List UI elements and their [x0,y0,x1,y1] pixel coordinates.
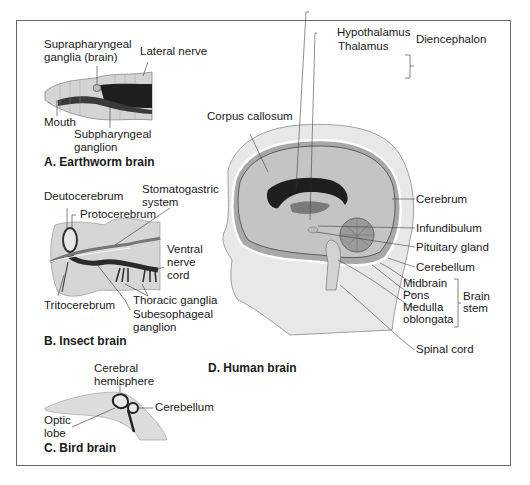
label-diencephalon: Diencephalon [416,33,486,46]
label-ventral-line2: nerve [167,256,196,269]
label-stomatogastric-line1: Stomatogastric [142,183,219,196]
label-cerebrum: Cerebrum [416,193,467,206]
label-protocerebrum: Protocerebrum [80,208,156,221]
label-subesophageal-line1: Subesophageal [133,308,213,321]
label-suprapharyngeal-line1: Suprapharyngeal [44,38,132,51]
label-infundibulum: Infundibulum [416,222,482,235]
label-lateral-nerve: Lateral nerve [140,45,207,58]
label-thalamus: Thalamus [338,40,389,53]
label-stomatogastric-line2: system [142,196,178,209]
label-pituitary-gland: Pituitary gland [416,241,489,254]
caption-human-brain: D. Human brain [208,361,297,375]
label-cerebral-line1: Cerebral [94,362,138,375]
label-bird-cerebellum: Cerebellum [155,401,214,414]
label-hypothalamus: Hypothalamus [337,26,411,39]
label-ventral-line3: cord [167,269,189,282]
label-tritocerebrum: Tritocerebrum [44,299,115,312]
label-brain-stem-line2: stem [463,302,488,315]
label-mouth: Mouth [44,116,76,129]
label-optic-line1: Optic [44,414,71,427]
label-medulla-line2: oblongata [403,313,454,326]
label-optic-line2: lobe [44,427,66,440]
label-cerebellum: Cerebellum [416,261,475,274]
label-corpus-callosum: Corpus callosum [207,110,293,123]
caption-bird-brain: C. Bird brain [44,441,116,455]
label-subesophageal-line2: ganglion [133,321,176,334]
label-cerebral-line2: hemisphere [94,375,154,388]
caption-earthworm-brain: A. Earthworm brain [44,155,155,169]
label-subpharyngeal-line2: ganglion [74,141,117,154]
label-suprapharyngeal-line2: ganglia (brain) [44,51,118,64]
caption-insect-brain: B. Insect brain [44,334,127,348]
label-ventral-line1: Ventral [167,243,203,256]
label-deutocerebrum: Deutocerebrum [44,190,123,203]
label-thoracic-ganglia: Thoracic ganglia [133,294,217,307]
label-spinal-cord: Spinal cord [416,343,474,356]
label-subpharyngeal-line1: Subpharyngeal [74,128,151,141]
